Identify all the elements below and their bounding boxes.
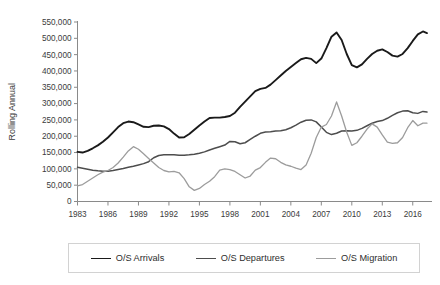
y-tick-label: 250,000 [42, 116, 72, 125]
series-line-o-s-migration [78, 102, 427, 190]
x-tick-label: 2010 [343, 210, 362, 219]
legend-label: O/S Arrivals [116, 253, 165, 263]
x-tick-label: 1995 [190, 210, 209, 219]
y-tick-label: 150,000 [42, 148, 72, 157]
y-tick-label: 550,000 [42, 18, 72, 27]
legend-item-o-s-migration[interactable]: O/S Migration [316, 253, 397, 263]
x-tick-label: 2013 [373, 210, 392, 219]
y-tick-label: 50,000 [46, 181, 71, 190]
legend-line-swatch-icon [196, 258, 216, 259]
line-chart: 050,000100,000150,000200,000250,000300,0… [0, 0, 440, 285]
y-axis-title: Rolling Annual [7, 83, 17, 141]
y-tick-label: 350,000 [42, 83, 72, 92]
x-tick-label: 1983 [68, 210, 87, 219]
x-tick-label: 2001 [251, 210, 270, 219]
y-tick-label: 200,000 [42, 132, 72, 141]
legend-label: O/S Departures [221, 253, 285, 263]
legend-label: O/S Migration [341, 253, 397, 263]
data-series-group [78, 31, 427, 190]
chart-legend: O/S ArrivalsO/S DeparturesO/S Migration [68, 243, 420, 273]
x-tick-label: 1992 [160, 210, 179, 219]
x-tick-label: 2004 [282, 210, 301, 219]
y-tick-label: 300,000 [42, 99, 72, 108]
legend-item-o-s-departures[interactable]: O/S Departures [196, 253, 285, 263]
x-tick-label: 2016 [404, 210, 423, 219]
x-tick-label: 2007 [312, 210, 331, 219]
chart-plot-area: 050,000100,000150,000200,000250,000300,0… [0, 0, 440, 232]
legend-line-swatch-icon [91, 258, 111, 259]
series-line-o-s-departures [78, 111, 427, 171]
x-tick-label: 1986 [99, 210, 118, 219]
y-tick-label: 450,000 [42, 51, 72, 60]
legend-item-o-s-arrivals[interactable]: O/S Arrivals [91, 253, 165, 263]
y-tick-label: 0 [67, 197, 72, 206]
legend-line-swatch-icon [316, 258, 336, 259]
series-line-o-s-arrivals [78, 31, 427, 152]
x-axis: 1983198619891992199519982001200420072010… [68, 202, 432, 219]
y-tick-label: 400,000 [42, 67, 72, 76]
y-tick-label: 100,000 [42, 165, 72, 174]
y-axis-title-text: Rolling Annual [7, 83, 17, 141]
y-tick-label: 500,000 [42, 34, 72, 43]
y-axis: 050,000100,000150,000200,000250,000300,0… [42, 18, 78, 207]
x-tick-label: 1998 [221, 210, 240, 219]
x-tick-label: 1989 [129, 210, 148, 219]
